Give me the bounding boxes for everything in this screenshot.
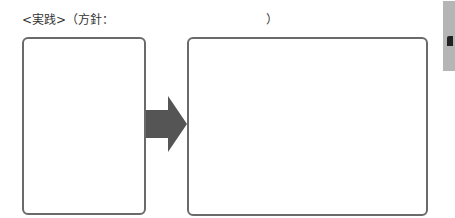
practice-heading: <実践>（方針： [22,10,114,27]
heading-close-paren: ） [266,10,278,27]
current-state-box[interactable] [22,37,146,215]
right-arrow-icon [146,96,188,152]
practice-result-box[interactable] [187,37,428,216]
side-tab-glyph-icon [447,36,453,46]
